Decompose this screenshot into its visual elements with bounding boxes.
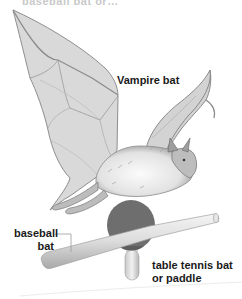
baseball-bat-label-line1: baseball xyxy=(14,227,54,240)
illustration-figure: baseball bat or… xyxy=(0,0,242,299)
baseball-bat-label: baseball bat xyxy=(14,227,54,253)
table-tennis-label-line2: or paddle xyxy=(152,272,233,285)
table-tennis-bat-label: table tennis bat or paddle xyxy=(152,259,233,285)
bat-comparison-illustration xyxy=(0,0,242,299)
vampire-bat-label: Vampire bat xyxy=(117,74,179,87)
table-tennis-label-line1: table tennis bat xyxy=(152,259,233,272)
baseball-bat-label-line2: bat xyxy=(14,240,54,253)
